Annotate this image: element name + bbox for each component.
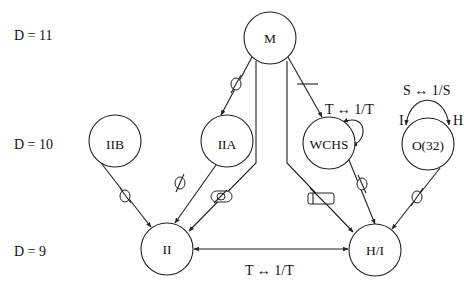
circle-marker-icon — [175, 174, 185, 192]
node-label-hi: H/I — [366, 244, 384, 258]
edge-iia-to-ii — [175, 165, 216, 223]
node-label-iib: IIB — [106, 138, 124, 152]
node-label-o32: O(32) — [412, 139, 444, 153]
o32-left-end-label: I — [399, 114, 404, 128]
circle-marker-icon — [120, 188, 131, 203]
node-label-m: M — [264, 32, 276, 46]
oval-slash-marker-icon — [211, 190, 232, 203]
o32-right-end-label: H — [453, 114, 463, 128]
level-label-d11: D = 11 — [14, 29, 53, 43]
edge-wchs-to-hi — [349, 160, 375, 224]
duality-diagram — [0, 0, 474, 292]
o32-duality-label: S ↔ 1/S — [403, 84, 450, 98]
node-label-wchs: WCHS — [309, 138, 348, 152]
level-label-d9: D = 9 — [14, 245, 46, 259]
cylinder-marker-icon — [308, 188, 334, 204]
ii-hi-duality-label: T ↔ 1/T — [245, 264, 294, 278]
level-label-d10: D = 10 — [14, 138, 53, 152]
node-label-ii: II — [163, 243, 172, 257]
edge-m-to-wchs — [288, 57, 322, 117]
circle-marker-icon — [231, 75, 241, 93]
circle-marker-icon — [411, 188, 423, 206]
node-label-iia: IIA — [218, 138, 237, 152]
wchs-duality-label: T ↔ 1/T — [325, 103, 374, 117]
circle-marker-icon — [357, 175, 367, 193]
